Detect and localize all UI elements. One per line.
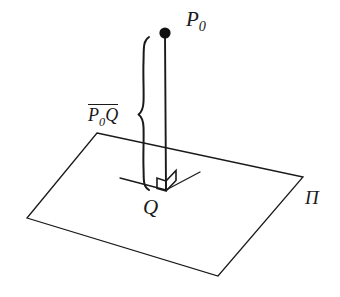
label-point-p0: P0 <box>186 9 206 33</box>
label-point-p0-letter: P <box>186 7 199 31</box>
figure-canvas <box>0 0 340 297</box>
perpendicular-line <box>165 34 166 190</box>
curly-brace-icon <box>139 37 150 190</box>
label-plane-pi: Π <box>305 188 319 207</box>
label-point-q: Q <box>143 197 158 218</box>
geometry-figure: P0 Q Π P0Q <box>0 0 340 297</box>
label-segment-p0q: P0Q <box>88 104 118 128</box>
segment-letter-q: Q <box>105 105 118 125</box>
point-p0-marker <box>159 27 170 38</box>
segment-letter-p: P <box>88 105 99 125</box>
segment-overline: P0Q <box>88 104 118 128</box>
label-point-p0-subscript: 0 <box>199 18 206 34</box>
